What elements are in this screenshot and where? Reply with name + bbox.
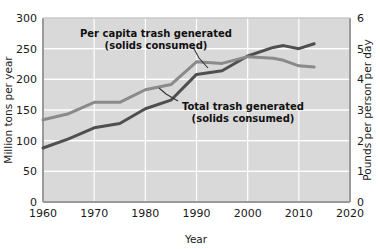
y-tick-150: 150 <box>16 104 37 117</box>
y-tick-100: 100 <box>16 135 37 148</box>
annotation-total-line1: Total trash generated <box>182 101 304 112</box>
annotation-total: Total trash generated (solids consumed) <box>182 101 304 124</box>
x-tick-1980: 1980 <box>131 207 159 220</box>
y-tick-50: 50 <box>23 165 37 178</box>
annotation-total-line2: (solids consumed) <box>192 113 295 124</box>
x-tick-1990: 1990 <box>183 207 211 220</box>
x-tick-1970: 1970 <box>80 207 108 220</box>
left-axis-tick-labels: 050100150200250300 <box>16 12 37 209</box>
x-tick-2000: 2000 <box>234 207 262 220</box>
dual-axis-line-chart: 050100150200250300 0123456 1960197019801… <box>0 0 380 249</box>
y-tick-200: 200 <box>16 73 37 86</box>
annotation-per-capita-line1: Per capita trash generated <box>80 28 232 39</box>
right-axis-title: Pounds per person per day <box>361 39 373 180</box>
x-axis-tick-labels: 1960197019801990200020102020 <box>29 207 364 220</box>
y2-tick-6: 6 <box>357 12 364 25</box>
y-tick-300: 300 <box>16 12 37 25</box>
y-tick-250: 250 <box>16 43 37 56</box>
x-axis-title: Year <box>184 233 208 245</box>
chart-container: 050100150200250300 0123456 1960197019801… <box>0 0 380 249</box>
annotation-per-capita-line2: (solids consumed) <box>105 40 208 51</box>
left-axis-title: Million tons per year <box>2 56 14 164</box>
x-tick-1960: 1960 <box>29 207 57 220</box>
x-tick-2010: 2010 <box>285 207 313 220</box>
x-tick-2020: 2020 <box>336 207 364 220</box>
